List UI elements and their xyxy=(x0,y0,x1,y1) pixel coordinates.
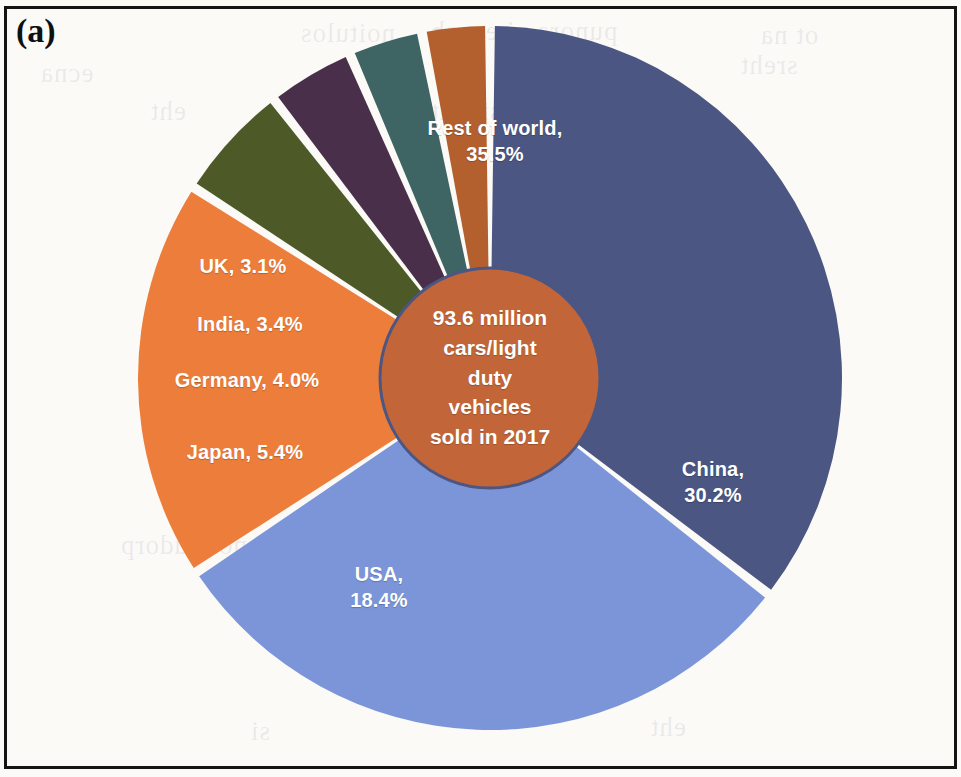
slice-label-usa: USA, 18.4% xyxy=(350,561,408,614)
figure-panel: noitulospunora ni ecnabot nanoitposrehte… xyxy=(0,0,961,777)
panel-label: (a) xyxy=(16,12,56,50)
slice-label-rest-of-world: Rest of world, 35.5% xyxy=(427,115,562,168)
slice-label-japan: Japan, 5.4% xyxy=(187,439,304,465)
slice-label-uk: UK, 3.1% xyxy=(199,253,286,279)
slice-label-germany: Germany, 4.0% xyxy=(175,367,320,393)
slice-label-india: India, 3.4% xyxy=(197,311,303,337)
slice-label-china: China, 30.2% xyxy=(682,456,744,509)
donut-center-note: 93.6 million cars/light duty vehicles so… xyxy=(430,303,550,452)
